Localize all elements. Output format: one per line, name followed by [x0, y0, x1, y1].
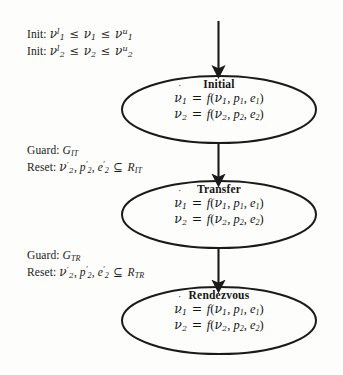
eq-sign: = [190, 195, 203, 210]
state-equation-initial-1: ˙ν1 = f(ν1, p1, e1) [122, 90, 316, 106]
init-mid-2: ν2 [84, 44, 97, 58]
arg-0: ν1 [214, 301, 227, 316]
rparen: ) [259, 318, 263, 332]
reset-var-tr-1: p′2 [80, 266, 92, 278]
rparen: ) [259, 212, 263, 226]
state-equation-transfer-1: ˙ν1 = f(ν1, p1, e1) [122, 195, 316, 211]
arg-0: ν2 [214, 211, 227, 226]
comma-0: , [227, 212, 230, 226]
rparen: ) [259, 107, 263, 121]
reset-comma-it-0: , [74, 161, 77, 173]
nu-dot-2: ˙ν2 [174, 211, 187, 227]
reset-label-it: Reset: [27, 161, 56, 173]
comma-0: , [227, 91, 230, 105]
state-node-transfer: Transfer ˙ν1 = f(ν1, p1, e1) ˙ν2 = f(ν2,… [122, 183, 316, 227]
arg-0: ν2 [214, 106, 227, 121]
state-equation-transfer-2: ˙ν2 = f(ν2, p2, e2) [122, 211, 316, 227]
reset-var-tr-0: ν′2 [59, 265, 74, 279]
reset-var-tr-2: e′2 [98, 266, 109, 278]
reset-rel-tr: ⊆ [112, 265, 125, 279]
rparen: ) [259, 196, 263, 210]
init-label-2: Init: [27, 45, 47, 57]
reset-label-tr: Reset: [27, 266, 56, 278]
arg-1: p2 [233, 212, 243, 226]
hybrid-automaton-diagram: Init: νl1 ≤ ν1 ≤ νu1 Init: νl2 ≤ ν2 ≤ νu… [0, 0, 343, 375]
init-rel-1b: ≤ [99, 27, 112, 41]
nu-dot-2: ˙ν2 [174, 317, 187, 333]
reset-line-tr: Reset: ν′2, p′2, e′2 ⊆ RTR [27, 264, 144, 281]
eq-sign: = [190, 90, 203, 105]
comma-1: , [244, 196, 247, 210]
transition-label-initial-to-transfer: Guard: GIT Reset: ν′2, p′2, e′2 ⊆ RIT [27, 142, 142, 176]
comma-0: , [227, 196, 230, 210]
init-conditions-block: Init: νl1 ≤ ν1 ≤ νu1 Init: νl2 ≤ ν2 ≤ νu… [27, 26, 133, 60]
comma-1: , [244, 302, 247, 316]
guard-line-it: Guard: GIT [27, 142, 142, 159]
arg-0: ν1 [214, 90, 227, 105]
comma-0: , [227, 302, 230, 316]
reset-line-it: Reset: ν′2, p′2, e′2 ⊆ RIT [27, 159, 142, 176]
arg-0: ν2 [214, 317, 227, 332]
comma-0: , [227, 107, 230, 121]
arg-1: p1 [233, 196, 243, 210]
state-equation-rendezvous-2: ˙ν2 = f(ν2, p2, e2) [122, 317, 316, 333]
reset-target-tr: RTR [128, 266, 145, 278]
init-condition-line-2: Init: νl2 ≤ ν2 ≤ νu2 [27, 43, 133, 60]
reset-target-it: RIT [128, 161, 142, 173]
state-node-initial: Initial ˙ν1 = f(ν1, p1, e1) ˙ν2 = f(ν2, … [122, 78, 316, 122]
arg-1: p2 [233, 107, 243, 121]
reset-var-it-1: p′2 [80, 161, 92, 173]
eq-sign: = [190, 211, 203, 226]
reset-comma-it-1: , [92, 161, 95, 173]
init-mid-1: ν1 [84, 27, 97, 41]
init-lhs-1: νl1 [50, 27, 65, 41]
init-label-1: Init: [27, 28, 47, 40]
comma-1: , [244, 318, 247, 332]
arg-1: p2 [233, 318, 243, 332]
comma-1: , [244, 91, 247, 105]
state-equation-rendezvous-1: ˙ν1 = f(ν1, p1, e1) [122, 301, 316, 317]
guard-line-tr: Guard: GTR [27, 247, 144, 264]
comma-1: , [244, 212, 247, 226]
nu-dot-2: ˙ν2 [174, 106, 187, 122]
reset-rel-it: ⊆ [112, 160, 125, 174]
comma-0: , [227, 318, 230, 332]
arg-1: p1 [233, 302, 243, 316]
reset-comma-tr-0: , [74, 266, 77, 278]
reset-var-it-2: e′2 [98, 161, 109, 173]
guard-symbol-it: GIT [63, 144, 79, 156]
reset-comma-tr-1: , [92, 266, 95, 278]
init-rhs-2: νu2 [115, 44, 133, 58]
arg-1: p1 [233, 91, 243, 105]
rparen: ) [259, 91, 263, 105]
arg-0: ν1 [214, 195, 227, 210]
state-node-rendezvous: Rendezvous ˙ν1 = f(ν1, p1, e1) ˙ν2 = f(ν… [122, 289, 316, 333]
state-title-rendezvous: Rendezvous [122, 289, 316, 301]
guard-label-tr: Guard: [27, 249, 60, 261]
guard-label-it: Guard: [27, 144, 60, 156]
init-rel-2b: ≤ [99, 44, 112, 58]
init-lhs-2: νl2 [50, 44, 65, 58]
init-rel-2a: ≤ [68, 44, 81, 58]
state-equation-initial-2: ˙ν2 = f(ν2, p2, e2) [122, 106, 316, 122]
guard-symbol-tr: GTR [63, 249, 81, 261]
init-rhs-1: νu1 [115, 27, 133, 41]
reset-var-it-0: ν′2 [59, 160, 74, 174]
eq-sign: = [190, 106, 203, 121]
eq-sign: = [190, 317, 203, 332]
eq-sign: = [190, 301, 203, 316]
init-rel-1a: ≤ [68, 27, 81, 41]
comma-1: , [244, 107, 247, 121]
state-title-transfer: Transfer [122, 183, 316, 195]
rparen: ) [259, 302, 263, 316]
transition-label-transfer-to-rendezvous: Guard: GTR Reset: ν′2, p′2, e′2 ⊆ RTR [27, 247, 144, 281]
init-condition-line-1: Init: νl1 ≤ ν1 ≤ νu1 [27, 26, 133, 43]
state-title-initial: Initial [122, 78, 316, 90]
